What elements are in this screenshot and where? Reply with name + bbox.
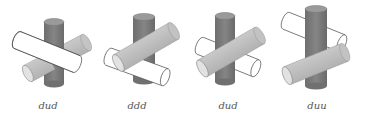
panel-label: dud [38, 100, 57, 111]
panel-label: ddd [127, 100, 146, 111]
panel-label: duu [307, 100, 326, 111]
panel-4: duu [279, 6, 352, 112]
panel-label: dud [218, 100, 237, 111]
panel-1: dud [10, 19, 94, 112]
panel-3: dud [193, 13, 268, 112]
panel-2: ddd [102, 14, 182, 112]
crossing-cylinders-figure: dud ddd [0, 0, 365, 122]
